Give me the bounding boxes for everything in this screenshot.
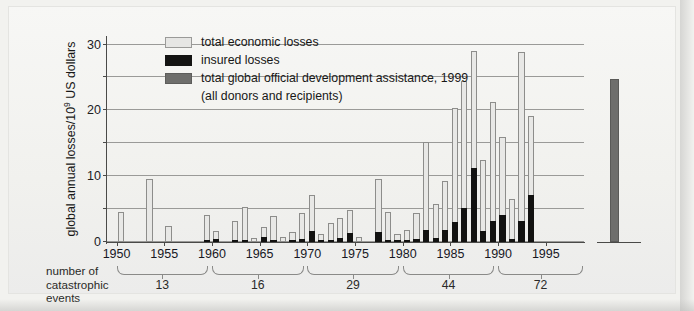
bar-1993 — [528, 38, 534, 242]
legend-swatch-oda — [165, 73, 192, 84]
brace-count-1950-1959: 13 — [156, 278, 170, 292]
legend-label-oda: total global official development assist… — [201, 71, 468, 85]
bar-insured-losses-1992 — [518, 221, 524, 242]
x-tick-mark-1960 — [212, 242, 213, 246]
x-tick-label-1960: 1960 — [198, 247, 226, 261]
x-tick-label-1985: 1985 — [437, 247, 465, 261]
x-tick-label-1975: 1975 — [341, 247, 369, 261]
y-tick-label-20: 20 — [87, 103, 101, 117]
bar-total-economic-losses-1991 — [509, 199, 515, 242]
x-tick-label-1980: 1980 — [389, 247, 417, 261]
legend-swatch-total-economic-losses — [165, 37, 192, 48]
y-axis-line — [106, 36, 107, 244]
legend-item-total-economic-losses: total economic losses — [165, 34, 468, 50]
bar-1991 — [509, 38, 515, 242]
bar-insured-losses-1988 — [480, 231, 486, 242]
brace-count-1970-1979: 29 — [346, 278, 360, 292]
x-axis-line — [106, 242, 585, 243]
brace-count-1960-1969: 16 — [251, 278, 265, 292]
bar-insured-losses-1989 — [490, 221, 496, 242]
bar-1988 — [480, 38, 486, 242]
bar-1950 — [118, 38, 124, 242]
bar-insured-losses-1986 — [461, 208, 467, 242]
x-tick-label-1955: 1955 — [150, 247, 178, 261]
y-axis-title-exponent: 9 — [62, 102, 72, 107]
legend: total economic losses insured losses tot… — [165, 34, 468, 104]
x-tick-mark-1950 — [117, 242, 118, 246]
x-tick-mark-1955 — [164, 242, 165, 246]
bar-total-economic-losses-1966 — [270, 216, 276, 242]
catastrophic-events-caption-line1: number of — [46, 264, 126, 278]
legend-item-oda: total global official development assist… — [165, 70, 468, 86]
x-tick-label-1965: 1965 — [246, 247, 274, 261]
oda-baseline — [597, 242, 641, 243]
brace-count-1990-1999: 72 — [534, 278, 548, 292]
page-edge-shadow-right — [680, 0, 694, 311]
bar-oda-1999 — [610, 79, 619, 242]
brace-count-1980-1989: 44 — [442, 278, 456, 292]
x-tick-mark-1990 — [498, 242, 499, 246]
bar-total-economic-losses-1969 — [299, 213, 305, 242]
legend-label-insured-losses: insured losses — [201, 53, 280, 67]
bar-total-economic-losses-1983 — [433, 204, 439, 242]
bar-insured-losses-1985 — [452, 222, 458, 242]
x-tick-mark-1995 — [546, 242, 547, 246]
legend-label-total-economic-losses: total economic losses — [201, 35, 319, 49]
bar-total-economic-losses-1955 — [165, 226, 171, 242]
bar-total-economic-losses-1992 — [518, 52, 524, 243]
bar-total-economic-losses-1959 — [204, 215, 210, 242]
bar-total-economic-losses-1962 — [232, 221, 238, 242]
bar-total-economic-losses-1978 — [385, 212, 391, 242]
bar-insured-losses-1984 — [442, 230, 448, 242]
bar-total-economic-losses-1981 — [413, 213, 419, 242]
oda-bar-panel — [600, 38, 636, 242]
y-axis-title-suffix: US dollars — [64, 42, 78, 103]
bar-insured-losses-1977 — [375, 232, 381, 242]
legend-swatch-insured-losses — [165, 55, 192, 66]
y-tick-label-10: 10 — [87, 169, 101, 183]
y-axis-title: global annual losses/109 US dollars — [56, 36, 78, 242]
bar-1989 — [490, 38, 496, 242]
legend-sublabel-oda: (all donors and recipients) — [201, 88, 468, 104]
bar-total-economic-losses-1988 — [480, 160, 486, 242]
x-tick-label-1950: 1950 — [103, 247, 131, 261]
x-tick-mark-1980 — [403, 242, 404, 246]
bar-insured-losses-1990 — [499, 215, 505, 242]
x-tick-mark-1985 — [450, 242, 451, 246]
bar-insured-losses-1987 — [471, 168, 477, 242]
x-tick-mark-1975 — [355, 242, 356, 246]
bar-1953 — [146, 38, 152, 242]
bar-insured-losses-1974 — [347, 233, 353, 242]
bar-1990 — [499, 38, 505, 242]
figure-page: global annual losses/109 US dollars 0102… — [0, 0, 694, 311]
bar-1987 — [471, 38, 477, 242]
bar-1992 — [518, 38, 524, 242]
x-tick-mark-1965 — [260, 242, 261, 246]
y-axis-title-prefix: global annual losses/10 — [64, 107, 78, 237]
bar-insured-losses-1982 — [423, 230, 429, 243]
bar-total-economic-losses-1950 — [118, 212, 124, 242]
x-tick-label-1970: 1970 — [293, 247, 321, 261]
x-tick-label-1990: 1990 — [484, 247, 512, 261]
legend-item-insured-losses: insured losses — [165, 52, 468, 68]
bar-total-economic-losses-1963 — [242, 207, 248, 242]
y-tick-label-30: 30 — [87, 38, 101, 52]
page-edge-shadow-bottom — [0, 299, 694, 311]
y-tick-label-0: 0 — [94, 235, 101, 249]
x-tick-mark-1970 — [307, 242, 308, 246]
x-tick-label-1995: 1995 — [532, 247, 560, 261]
bar-insured-losses-1993 — [528, 195, 534, 242]
bar-insured-losses-1970 — [309, 231, 315, 242]
bar-total-economic-losses-1982 — [423, 142, 429, 242]
bar-total-economic-losses-1953 — [146, 179, 152, 243]
